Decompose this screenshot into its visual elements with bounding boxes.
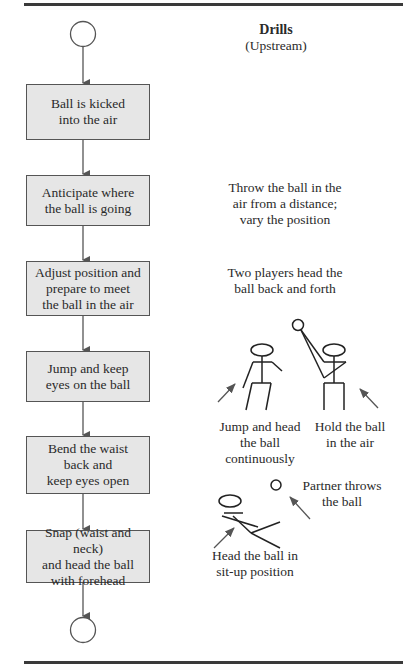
bottom-rule xyxy=(24,661,403,664)
flow-step-1: Ball is kicked into the air xyxy=(26,84,150,140)
diagram-subtitle: (Upstream) xyxy=(216,38,336,54)
flow-step-4: Jump and keep eyes on the ball xyxy=(26,351,150,402)
situp-player-figure xyxy=(219,480,281,548)
jumping-player-figure xyxy=(243,344,282,410)
drill-throw-from-distance: Throw the ball in the air from a distanc… xyxy=(210,180,360,228)
drill-jump-and-head: Jump and head the ball continuously xyxy=(205,419,315,467)
drill-hold-ball: Hold the ball in the air xyxy=(300,419,400,451)
holding-player-figure xyxy=(293,320,347,411)
drill-two-players: Two players head the ball back and forth xyxy=(210,265,360,297)
arrow-icon xyxy=(360,389,378,408)
arrow-icon xyxy=(214,528,234,548)
flow-step-6: Snap (waist and neck) and head the ball … xyxy=(26,530,150,583)
end-node xyxy=(71,618,96,643)
flow-step-3: Adjust position and prepare to meet the … xyxy=(26,261,150,316)
arrow-icon xyxy=(218,384,235,402)
flow-step-5: Bend the waist back and keep eyes open xyxy=(26,436,150,494)
diagram-title: Drills xyxy=(236,22,316,38)
start-node xyxy=(71,22,96,47)
drill-partner-throws: Partner throws the ball xyxy=(287,478,397,510)
ball-icon xyxy=(271,480,281,490)
flow-step-2: Anticipate where the ball is going xyxy=(26,175,150,226)
drill-situp-head: Head the ball in sit-up position xyxy=(200,548,310,580)
